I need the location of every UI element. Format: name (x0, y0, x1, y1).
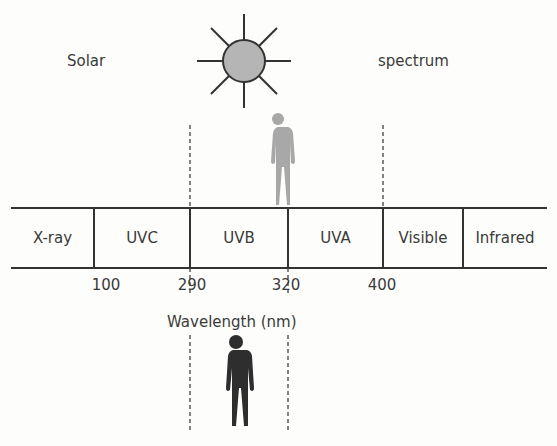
person-gray-icon (268, 113, 295, 205)
band-infrared: Infrared (463, 216, 547, 260)
sun-icon (197, 14, 291, 108)
axis-label: Wavelength (nm) (167, 313, 297, 331)
tick-320: 320 (272, 276, 301, 294)
title-right: spectrum (378, 52, 449, 70)
tick-400: 400 (368, 276, 397, 294)
tick-100: 100 (92, 276, 121, 294)
tick-290: 290 (178, 276, 207, 294)
title-left: Solar (67, 52, 105, 70)
band-uvc: UVC (94, 216, 190, 260)
person-dark-icon (225, 335, 254, 426)
band-uva: UVA (288, 216, 383, 260)
band-visible: Visible (383, 216, 463, 260)
band-uvb: UVB (190, 216, 288, 260)
band-xray: X-ray (11, 216, 94, 260)
